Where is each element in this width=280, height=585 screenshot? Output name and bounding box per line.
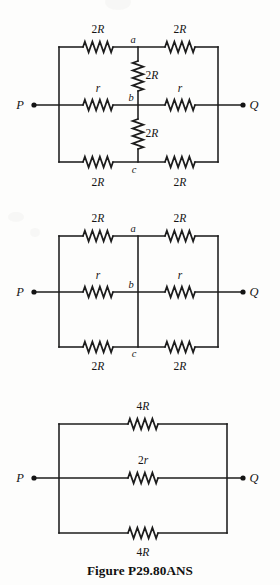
terminal-label-P: P (15, 98, 24, 112)
bottom-branch-resistor-label: 4R (137, 546, 150, 558)
terminal-label-P: P (15, 471, 24, 485)
bridge-resistor-bc-label: 2R (146, 127, 159, 139)
bridge-resistor-ab-label: 2R (146, 69, 159, 81)
bottom-right-resistor (165, 342, 195, 353)
top-branch-resistor-label: 4R (137, 400, 150, 412)
top-branch-resistor (128, 419, 158, 430)
terminal-label-P: P (15, 285, 24, 299)
middle-left-resistor-label: r (96, 269, 101, 281)
terminal-dot-Q (240, 102, 245, 107)
middle-right-resistor (165, 100, 195, 111)
node-label-a: a (130, 34, 135, 45)
top-left-resistor-label: 2R (92, 212, 105, 224)
terminal-dot-Q (240, 475, 245, 480)
node-label-c: c (132, 164, 137, 175)
top-right-resistor-label: 2R (174, 23, 187, 35)
bottom-left-resistor (83, 342, 113, 353)
bottom-right-resistor-label: 2R (174, 360, 187, 372)
middle-branch-resistor-label: 2r (138, 454, 149, 466)
terminal-label-Q: Q (249, 471, 258, 485)
top-left-resistor-label: 2R (92, 23, 105, 35)
bottom-left-resistor (83, 157, 113, 168)
node-label-b: b (128, 279, 133, 290)
bottom-left-resistor-label: 2R (92, 176, 105, 188)
bottom-right-resistor (165, 157, 195, 168)
terminal-dot-P (31, 102, 36, 107)
terminal-dot-P (31, 289, 36, 294)
circuit-diagram-canvas: 2R2Rrr2R2R2R2RabcPQ2R2Rrr2R2RabcPQ4R2r4R… (0, 0, 280, 585)
middle-left-resistor (83, 100, 113, 111)
bottom-left-resistor-label: 2R (92, 360, 105, 372)
bridge-resistor-bc (133, 119, 144, 149)
terminal-label-Q: Q (249, 285, 258, 299)
node-label-b: b (128, 92, 133, 103)
node-label-a: a (130, 223, 135, 234)
original-network-with-bridge-resistors: 2R2Rrr2R2R2R2RabcPQ (15, 23, 258, 188)
final-three-branch-parallel-network: 4R2r4RPQ (15, 400, 258, 558)
top-right-resistor-label: 2R (174, 212, 187, 224)
bottom-branch-resistor (128, 528, 158, 539)
terminal-dot-Q (240, 289, 245, 294)
figure-root: 2R2Rrr2R2R2R2RabcPQ2R2Rrr2R2RabcPQ4R2r4R… (0, 0, 280, 585)
figure-caption: Figure P29.80ANS (0, 563, 280, 579)
middle-right-resistor-label: r (178, 269, 183, 281)
top-right-resistor (165, 42, 195, 53)
bottom-right-resistor-label: 2R (174, 176, 187, 188)
middle-branch-resistor (128, 473, 158, 484)
terminal-dot-P (31, 475, 36, 480)
middle-right-resistor-label: r (178, 82, 183, 94)
reduced-network-with-shorted-bridge: 2R2Rrr2R2RabcPQ (15, 212, 258, 372)
top-right-resistor (165, 231, 195, 242)
terminal-label-Q: Q (249, 98, 258, 112)
middle-right-resistor (165, 287, 195, 298)
node-label-c: c (132, 348, 137, 359)
bridge-resistor-ab (133, 61, 144, 91)
top-left-resistor (83, 42, 113, 53)
middle-left-resistor-label: r (96, 82, 101, 94)
top-left-resistor (83, 231, 113, 242)
middle-left-resistor (83, 287, 113, 298)
